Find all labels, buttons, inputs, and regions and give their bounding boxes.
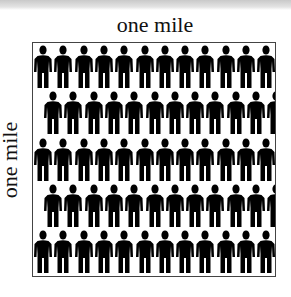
person-icon: [84, 184, 104, 228]
person-icon: [84, 91, 104, 135]
person-icon: [256, 45, 276, 89]
person-icon: [195, 230, 215, 274]
person-icon: [216, 138, 236, 182]
height-label: one mile: [0, 110, 22, 210]
person-icon: [246, 184, 266, 228]
person-icon: [226, 91, 246, 135]
person-icon: [175, 230, 195, 274]
person-icon: [165, 91, 185, 135]
person-icon: [175, 45, 195, 89]
person-icon: [53, 45, 73, 89]
person-icon: [135, 45, 155, 89]
person-icon: [216, 45, 236, 89]
person-icon: [236, 45, 256, 89]
person-icon: [74, 138, 94, 182]
person-icon: [94, 138, 114, 182]
person-row: [33, 230, 275, 276]
person-icon: [43, 184, 63, 228]
person-icon: [195, 45, 215, 89]
person-icon: [135, 138, 155, 182]
person-row: [33, 138, 275, 184]
person-icon: [216, 230, 236, 274]
person-icon: [53, 230, 73, 274]
person-icon: [104, 184, 124, 228]
person-row: [33, 184, 275, 230]
person-icon: [236, 230, 256, 274]
person-icon: [165, 184, 185, 228]
person-icon: [256, 138, 276, 182]
person-icon: [145, 184, 165, 228]
person-icon: [94, 45, 114, 89]
person-row: [33, 91, 275, 137]
person-icon: [205, 91, 225, 135]
person-icon: [63, 91, 83, 135]
person-icon: [256, 230, 276, 274]
person-icon: [94, 230, 114, 274]
person-icon: [74, 45, 94, 89]
person-icon: [226, 184, 246, 228]
person-icon: [114, 230, 134, 274]
square-mile-box: [32, 42, 276, 277]
person-icon: [155, 230, 175, 274]
person-icon: [33, 138, 53, 182]
person-icon: [135, 230, 155, 274]
person-icon: [33, 230, 53, 274]
person-icon: [33, 45, 53, 89]
person-icon: [236, 138, 256, 182]
person-icon: [205, 184, 225, 228]
person-icon: [114, 138, 134, 182]
person-icon: [266, 91, 276, 135]
person-icon: [63, 184, 83, 228]
person-icon: [155, 45, 175, 89]
person-icon: [175, 138, 195, 182]
person-icon: [266, 184, 276, 228]
person-icon: [104, 91, 124, 135]
person-icon: [145, 91, 165, 135]
person-icon: [74, 230, 94, 274]
person-icon: [185, 184, 205, 228]
person-row: [33, 45, 275, 91]
person-icon: [185, 91, 205, 135]
width-label: one mile: [0, 13, 291, 37]
person-icon: [155, 138, 175, 182]
person-icon: [114, 45, 134, 89]
top-shadow-band: [0, 0, 291, 10]
person-icon: [195, 138, 215, 182]
person-icon: [124, 184, 144, 228]
person-icon: [43, 91, 63, 135]
person-icon: [246, 91, 266, 135]
person-icon: [53, 138, 73, 182]
person-icon: [124, 91, 144, 135]
